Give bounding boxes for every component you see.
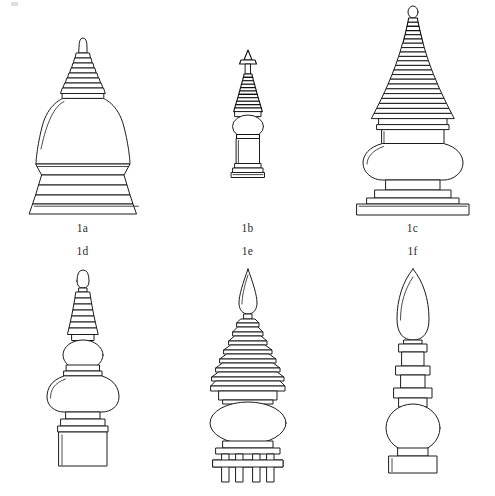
figure-cell-1f: 1f [330,244,495,496]
figure-label-1e: 1e [242,246,253,258]
figure-label-1c: 1c [407,223,418,235]
stupa-1a-drawing [18,27,148,217]
figure-cell-1e: 1e [165,244,330,496]
figure-label-1f: 1f [407,246,417,258]
figure-label-1d: 1d [76,246,88,258]
stupa-1d-drawing [33,265,133,473]
figure-cell-1b: 1b [165,0,330,236]
stupa-1e-drawing [189,265,307,485]
figure-plate: 1a [0,0,495,496]
stupa-1b-drawing [203,27,293,217]
figure-cell-1c: 1c [330,0,495,236]
figure-cell-1d: 1d [0,244,165,496]
stupa-1f-drawing [363,265,463,475]
figure-row-bottom: 1d [0,244,495,496]
figure-row-top: 1a [0,0,495,236]
figure-cell-1a: 1a [0,0,165,236]
figure-label-1b: 1b [241,223,253,235]
figure-label-1a: 1a [77,223,88,235]
stupa-1c-drawing [349,3,477,217]
